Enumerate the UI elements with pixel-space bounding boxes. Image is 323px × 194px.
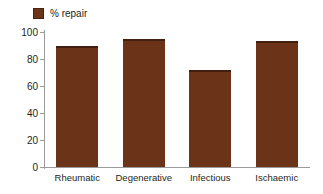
bar <box>56 46 98 168</box>
y-tick-label: 40 <box>27 108 38 119</box>
y-tick-label: 0 <box>32 162 38 173</box>
x-axis-category-label: Rheumatic <box>55 172 100 183</box>
x-axis-category-label: Ischaemic <box>255 172 298 183</box>
bar <box>189 70 231 167</box>
bar <box>123 39 165 167</box>
y-tick-label: 80 <box>27 54 38 65</box>
legend-swatch-icon <box>33 8 44 19</box>
x-axis-category-label: Degenerative <box>115 172 172 183</box>
y-tick-mark <box>40 167 44 168</box>
y-tick-label: 100 <box>21 27 38 38</box>
bar-series <box>44 32 310 167</box>
x-axis-category-labels: RheumaticDegenerativeInfectiousIschaemic <box>44 172 310 188</box>
legend-label: % repair <box>50 8 87 19</box>
chart-legend: % repair <box>33 6 87 20</box>
bar <box>256 41 298 167</box>
y-tick-label: 60 <box>27 81 38 92</box>
bar-chart: % repair 020406080100 RheumaticDegenerat… <box>0 0 323 194</box>
y-tick-label: 20 <box>27 135 38 146</box>
x-axis-line <box>44 167 310 168</box>
x-axis-category-label: Infectious <box>190 172 231 183</box>
plot-area: 020406080100 <box>44 32 310 167</box>
